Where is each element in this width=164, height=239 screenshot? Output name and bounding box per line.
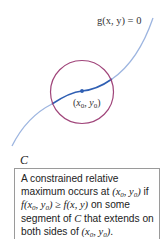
constraint-label: g(x, y) = 0 [97,15,141,26]
constraint-curve-upper [112,18,153,79]
caption-line-5: both sides of (x0, y0). [21,225,154,238]
caption-text: . [110,226,113,237]
point-math: (x0, y0) [82,226,111,237]
constraint-curve-lower [12,104,52,146]
caption-text: if [141,186,149,197]
constrained-maximum-figure: g(x, y) = 0 (x0, y0) C A constrained rel… [0,0,164,239]
caption-line-4: segment of C that extends on [21,212,154,225]
caption-text: on some [88,199,130,210]
caption-text: both sides of [21,226,82,237]
caption-line-2: maximum occurs at (x0, y0) if [21,185,154,198]
point-marker [80,89,84,93]
point-label-text: (x0, y0) [73,97,101,108]
caption-text: maximum occurs at [21,186,112,197]
caption-box: A constrained relative maximum occurs at… [14,168,160,239]
caption-text: that extends on [81,213,154,224]
curve-label: C [20,153,28,168]
point-math: (x0, y0) [112,186,141,197]
point-label: (x0, y0) [73,97,101,108]
caption-line-3: f(x0, y0) ≥ f(x, y) on some [21,198,154,211]
caption-text: segment of [21,213,74,224]
inequality-math: f(x0, y0) ≥ f(x, y) [21,199,88,210]
caption-line-1: A constrained relative [21,172,154,185]
